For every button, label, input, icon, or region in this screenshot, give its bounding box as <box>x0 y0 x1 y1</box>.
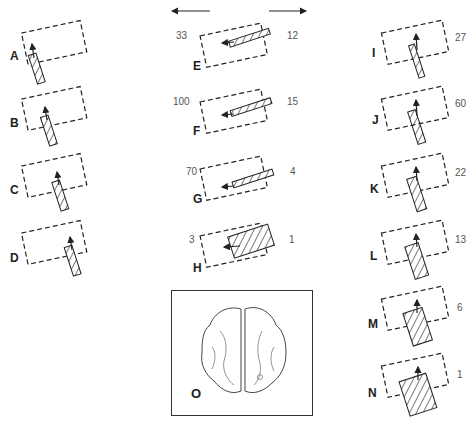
panel-h-diagram <box>200 223 274 267</box>
panel-i-diagram <box>381 20 448 78</box>
panel-label-b: B <box>10 117 19 129</box>
panel-e-left-value: 33 <box>176 31 187 41</box>
panel-label-g: G <box>193 193 202 205</box>
panel-o-inset: O <box>171 290 313 416</box>
panel-label-o: O <box>191 388 201 400</box>
panel-d-diagram <box>21 221 86 277</box>
panel-c-diagram <box>21 154 86 212</box>
receptive-field-figure: A B C D E F G H I J K L M N 33 12 100 15… <box>0 0 476 440</box>
panel-a-diagram <box>21 21 86 85</box>
panel-b-diagram <box>21 87 86 146</box>
panel-e-right-value: 12 <box>287 31 298 41</box>
panel-k-diagram <box>381 153 448 212</box>
panel-h-right-value: 1 <box>289 235 295 245</box>
panel-label-n: N <box>368 387 377 399</box>
panel-i-value: 27 <box>455 33 466 43</box>
panel-m-diagram <box>381 286 448 346</box>
panel-e-diagram <box>200 23 270 67</box>
panel-l-value: 13 <box>455 235 466 245</box>
panel-f-diagram <box>200 89 272 133</box>
panel-label-j: J <box>372 114 379 126</box>
panel-j-diagram <box>381 86 448 144</box>
panel-label-h: H <box>193 262 202 274</box>
panel-l-diagram <box>381 220 448 279</box>
panel-label-m: M <box>368 318 378 330</box>
panel-f-left-value: 100 <box>173 97 190 107</box>
panel-label-a: A <box>10 50 19 62</box>
panel-k-value: 22 <box>455 168 466 178</box>
panel-label-e: E <box>193 60 201 72</box>
panel-label-d: D <box>10 252 19 264</box>
panel-label-f: F <box>193 125 200 137</box>
panel-f-right-value: 15 <box>287 97 298 107</box>
panel-j-value: 60 <box>455 99 466 109</box>
panel-g-right-value: 4 <box>290 167 296 177</box>
panel-label-l: L <box>370 250 377 262</box>
panel-n-value: 1 <box>457 370 463 380</box>
panel-g-diagram <box>200 156 274 200</box>
panel-label-k: K <box>370 183 379 195</box>
panel-label-c: C <box>10 184 19 196</box>
panel-g-left-value: 70 <box>186 167 197 177</box>
panel-n-diagram <box>381 353 448 416</box>
panel-m-value: 6 <box>457 303 463 313</box>
panel-label-i: I <box>372 47 375 59</box>
panel-h-left-value: 3 <box>189 235 195 245</box>
